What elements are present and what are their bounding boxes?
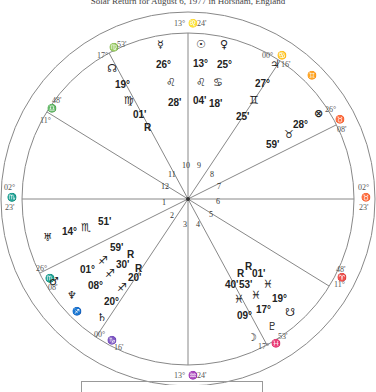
svg-text:48': 48'	[336, 265, 346, 274]
svg-text:♐: ♐	[117, 281, 127, 294]
svg-text:11°: 11°	[40, 116, 51, 125]
svg-text:23': 23'	[5, 203, 15, 212]
svg-text:13°: 13°	[174, 19, 185, 28]
svg-text:♋: ♋	[213, 76, 223, 89]
svg-text:26°: 26°	[36, 264, 47, 273]
svg-text:01': 01'	[252, 268, 266, 279]
svg-text:18': 18'	[209, 98, 223, 109]
svg-text:01°: 01°	[80, 264, 95, 275]
svg-text:4: 4	[196, 220, 200, 229]
svg-text:♃: ♃	[270, 58, 280, 71]
svg-text:♂: ♂	[49, 275, 59, 288]
svg-text:04': 04'	[193, 95, 207, 106]
svg-text:♇: ♇	[267, 320, 277, 333]
svg-text:♊: ♊	[307, 70, 317, 80]
svg-text:16': 16'	[114, 343, 124, 352]
svg-text:08': 08'	[337, 125, 347, 134]
center-dot	[186, 197, 190, 201]
svg-text:☽: ☽	[247, 331, 257, 344]
svg-text:5: 5	[209, 210, 213, 219]
svg-text:♀: ♀	[220, 38, 228, 51]
svg-text:13°: 13°	[193, 58, 208, 69]
svg-text:59': 59'	[266, 139, 280, 150]
svg-text:24': 24'	[197, 371, 207, 380]
svg-text:☿: ☿	[157, 38, 164, 51]
svg-text:40': 40'	[225, 279, 239, 290]
svg-text:☊: ☊	[107, 62, 117, 75]
svg-text:♏: ♏	[7, 192, 17, 202]
svg-text:♓: ♓	[234, 293, 244, 306]
svg-text:20°: 20°	[104, 296, 119, 307]
svg-text:♐: ♐	[105, 267, 115, 280]
svg-text:R: R	[237, 268, 245, 279]
svg-text:8: 8	[210, 170, 214, 179]
svg-text:28': 28'	[168, 97, 182, 108]
svg-text:53': 53'	[117, 40, 127, 49]
svg-text:♅: ♅	[43, 231, 53, 244]
svg-text:☉: ☉	[196, 38, 206, 51]
svg-text:53': 53'	[278, 332, 288, 341]
svg-text:09°: 09°	[237, 310, 252, 321]
svg-text:♓: ♓	[263, 278, 273, 291]
svg-text:00°: 00°	[94, 330, 105, 339]
svg-text:♉: ♉	[361, 192, 371, 202]
svg-text:♏: ♏	[81, 221, 91, 234]
svg-text:17°: 17°	[97, 51, 108, 60]
svg-text:10: 10	[182, 161, 190, 170]
svg-text:13°: 13°	[174, 371, 185, 380]
svg-text:☋: ☋	[285, 306, 295, 319]
svg-text:24': 24'	[197, 19, 207, 28]
svg-text:11: 11	[168, 170, 176, 179]
svg-text:17°: 17°	[258, 342, 269, 351]
svg-text:19°: 19°	[115, 79, 130, 90]
svg-text:9: 9	[197, 161, 201, 170]
svg-text:26°: 26°	[325, 105, 336, 114]
svg-text:28°: 28°	[293, 119, 308, 130]
svg-text:♓: ♓	[251, 289, 261, 302]
svg-text:25': 25'	[236, 111, 250, 122]
svg-text:♉: ♉	[284, 128, 294, 141]
svg-text:♐: ♐	[98, 254, 108, 267]
svg-text:59': 59'	[110, 242, 124, 253]
svg-text:♌: ♌	[166, 76, 176, 89]
svg-text:♍: ♍	[124, 94, 134, 107]
svg-text:14°: 14°	[62, 226, 77, 237]
svg-text:20': 20'	[128, 272, 142, 283]
svg-text:1: 1	[162, 198, 166, 207]
svg-text:02°: 02°	[358, 183, 369, 192]
svg-text:01': 01'	[133, 109, 147, 120]
svg-text:30': 30'	[116, 259, 130, 270]
svg-text:48': 48'	[52, 96, 62, 105]
svg-text:53': 53'	[239, 279, 253, 290]
svg-text:3: 3	[183, 220, 187, 229]
svg-text:17°: 17°	[256, 304, 271, 315]
svg-text:♆: ♆	[67, 289, 77, 302]
svg-text:2: 2	[170, 211, 174, 220]
svg-text:12: 12	[161, 182, 169, 191]
svg-text:♐: ♐	[72, 306, 82, 316]
svg-text:25°: 25°	[217, 59, 232, 70]
svg-text:6: 6	[216, 197, 220, 206]
svg-text:27°: 27°	[255, 78, 270, 89]
svg-text:⊗: ⊗	[314, 107, 323, 120]
svg-text:16': 16'	[281, 60, 291, 69]
svg-text:26°: 26°	[156, 59, 171, 70]
svg-text:♌: ♌	[196, 76, 206, 89]
svg-text:19°: 19°	[272, 293, 287, 304]
svg-text:23': 23'	[359, 203, 369, 212]
svg-text:08°: 08°	[88, 280, 103, 291]
svg-text:♉: ♉	[335, 114, 345, 124]
svg-text:R: R	[144, 122, 152, 133]
svg-text:♄: ♄	[97, 311, 107, 324]
svg-text:51': 51'	[98, 216, 112, 227]
svg-text:02°: 02°	[4, 183, 15, 192]
svg-text:7: 7	[217, 182, 221, 191]
svg-text:♊: ♊	[249, 94, 259, 107]
legend-box	[81, 381, 263, 392]
